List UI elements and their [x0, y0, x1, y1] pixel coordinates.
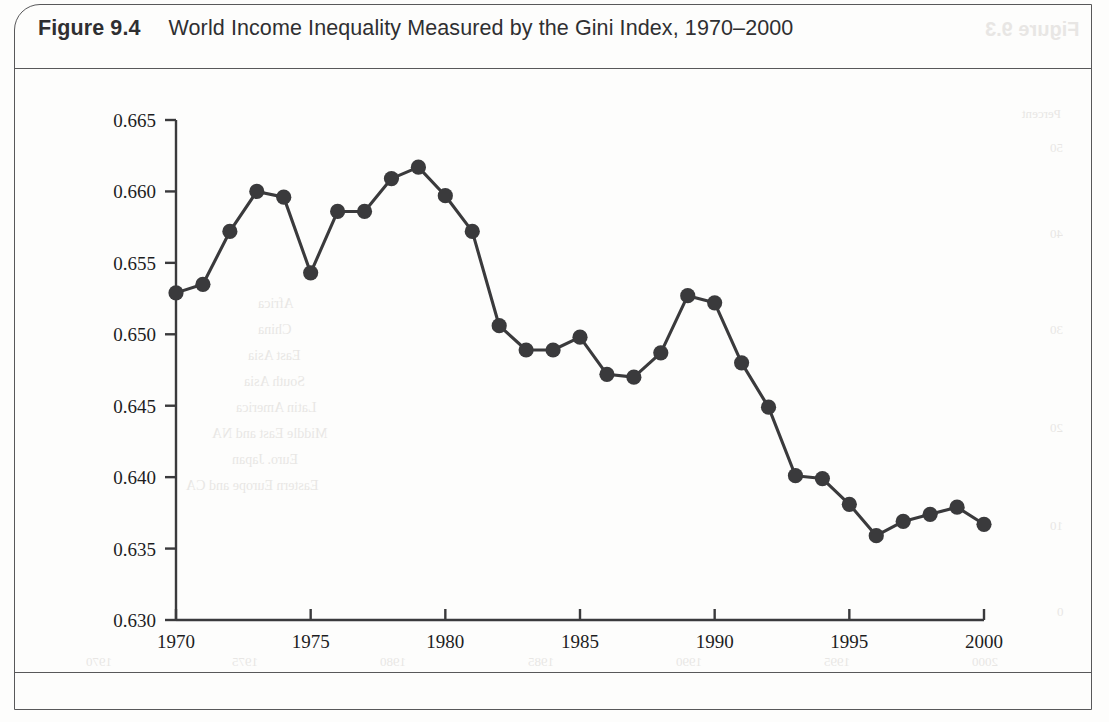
data-point-marker [357, 204, 372, 219]
y-axis-tick-label: 0.630 [113, 610, 156, 631]
series-line [176, 167, 984, 536]
data-point-marker [734, 355, 749, 370]
data-point-marker [949, 500, 964, 515]
data-point-marker [411, 160, 426, 175]
data-point-marker [896, 514, 911, 529]
x-axis-tick-label: 1985 [561, 631, 599, 652]
y-axis-tick-label: 0.665 [113, 110, 156, 131]
data-series-world-gini [168, 160, 991, 544]
y-axis: 0.6300.6350.6400.6450.6500.6550.6600.665 [113, 110, 176, 631]
data-point-marker [869, 528, 884, 543]
figure-number: Figure 9.4 [38, 16, 141, 40]
data-point-marker [545, 342, 560, 357]
y-axis-tick-label: 0.655 [113, 253, 156, 274]
chart-plot-area: 0.6300.6350.6400.6450.6500.6550.6600.665… [0, 70, 1078, 670]
data-point-marker [276, 190, 291, 205]
data-point-marker [976, 517, 991, 532]
title-divider [15, 68, 1091, 69]
y-axis-tick-label: 0.645 [113, 396, 156, 417]
x-axis-tick-label: 1995 [830, 631, 868, 652]
data-point-marker [842, 497, 857, 512]
x-axis: 1970197519801985199019952000 [157, 609, 1003, 652]
figure-page: Figure 9.3 Percent Africa China East Asi… [0, 0, 1109, 722]
y-axis-tick-label: 0.660 [113, 181, 156, 202]
data-point-marker [653, 345, 668, 360]
x-axis-tick-label: 1980 [426, 631, 464, 652]
data-point-marker [707, 295, 722, 310]
x-axis-tick-label: 2000 [965, 631, 1003, 652]
y-axis-tick-label: 0.650 [113, 324, 156, 345]
x-axis-tick-label: 1975 [292, 631, 330, 652]
y-axis-tick-label: 0.635 [113, 539, 156, 560]
data-point-marker [303, 265, 318, 280]
data-point-marker [572, 330, 587, 345]
data-point-marker [222, 224, 237, 239]
data-point-marker [815, 471, 830, 486]
data-point-marker [195, 277, 210, 292]
x-axis-tick-label: 1990 [696, 631, 734, 652]
data-point-marker [626, 370, 641, 385]
data-point-marker [168, 285, 183, 300]
data-point-marker [330, 204, 345, 219]
x-axis-tick-label: 1970 [157, 631, 195, 652]
data-point-marker [249, 184, 264, 199]
data-point-marker [465, 224, 480, 239]
data-point-marker [788, 468, 803, 483]
data-point-marker [492, 318, 507, 333]
gini-line-chart: 0.6300.6350.6400.6450.6500.6550.6600.665… [0, 70, 1078, 670]
data-point-marker [923, 507, 938, 522]
y-axis-tick-label: 0.640 [113, 467, 156, 488]
data-point-marker [680, 288, 695, 303]
figure-caption: World Income Inequality Measured by the … [169, 16, 794, 40]
data-point-marker [384, 171, 399, 186]
data-point-marker [599, 367, 614, 382]
data-point-marker [438, 188, 453, 203]
data-point-marker [761, 400, 776, 415]
figure-title: Figure 9.4World Income Inequality Measur… [38, 16, 793, 41]
data-point-marker [519, 342, 534, 357]
bottom-divider [15, 672, 1091, 673]
